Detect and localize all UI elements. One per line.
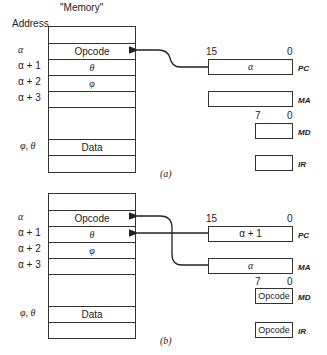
arrows-overlay: [0, 0, 327, 355]
memory-register-diagram: "Memory" Address α α + 1 α + 2 α + 3 φ, …: [0, 0, 327, 355]
arrow-ma-to-opcode-b: [138, 216, 208, 265]
arrow-pc-to-opcode-a: [138, 50, 208, 67]
